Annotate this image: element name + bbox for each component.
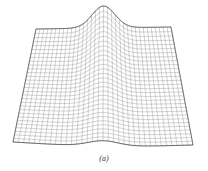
figure-caption: (a) — [0, 154, 208, 163]
wireframe-surface-plot — [0, 0, 208, 171]
